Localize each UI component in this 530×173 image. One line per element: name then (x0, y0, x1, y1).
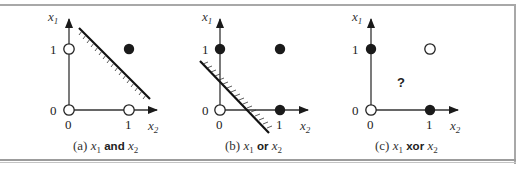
y-axis-label: x1 (47, 9, 58, 26)
point-filled (215, 44, 225, 54)
point-filled (366, 44, 376, 54)
point-open (64, 44, 74, 54)
tick-x0: 0 (216, 117, 223, 132)
x-axis-label: x2 (449, 118, 461, 135)
figure-frame: x1 x2 1 0 0 1 (0, 0, 530, 173)
point-filled (124, 44, 134, 54)
tick-y0: 0 (352, 103, 359, 118)
tick-y0: 0 (202, 103, 209, 118)
point-open (425, 44, 435, 54)
tick-y0: 0 (50, 103, 57, 118)
decision-boundary (200, 61, 269, 133)
point-filled (275, 105, 285, 115)
tick-y1: 1 (352, 42, 359, 57)
boundary-hatching (203, 62, 272, 128)
unknown-boundary-marker: ? (397, 75, 405, 90)
panel-b: x1 x2 1 0 0 1 (200, 9, 311, 155)
y-axis-label: x1 (201, 9, 212, 26)
tick-x0: 0 (65, 117, 72, 132)
caption-b: (b) x1 or x2 (225, 138, 282, 155)
point-filled (275, 44, 285, 54)
diagram-canvas: x1 x2 1 0 0 1 (0, 0, 530, 173)
tick-x0: 0 (367, 117, 374, 132)
caption-c: (c) x1 xor x2 (375, 138, 438, 155)
tick-y1: 1 (50, 42, 57, 57)
point-open (64, 105, 74, 115)
point-open (215, 105, 225, 115)
x-axis-label: x2 (299, 118, 311, 135)
boundary-hatching (79, 31, 146, 99)
point-filled (425, 105, 435, 115)
point-open (124, 105, 134, 115)
y-axis-label: x1 (351, 9, 362, 26)
tick-x1: 1 (276, 117, 283, 132)
tick-y1: 1 (202, 42, 209, 57)
tick-x1: 1 (426, 117, 433, 132)
point-open (366, 105, 376, 115)
x-axis-label: x2 (147, 118, 159, 135)
decision-boundary (79, 28, 150, 99)
panel-c: x1 x2 1 0 0 1 ? (c) x1 xor x2 (351, 9, 461, 155)
caption-a: (a) x1 and x2 (73, 138, 138, 155)
panel-a: x1 x2 1 0 0 1 (47, 9, 159, 155)
tick-x1: 1 (125, 117, 132, 132)
